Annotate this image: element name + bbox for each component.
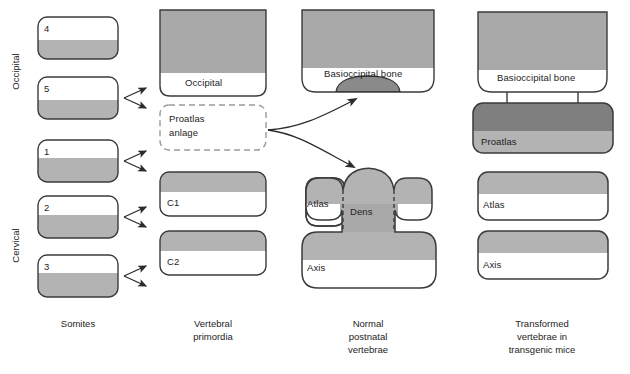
caption-transformed-line1: Transformed (472, 318, 612, 331)
somite-box-1 (38, 140, 118, 182)
split-arrow-somite-2 (124, 207, 146, 227)
label-basioccipital-normal: Basioccipital bone (324, 68, 402, 80)
caption-transformed-line2: vertebrae in (472, 331, 612, 344)
label-occipital-primordium: Occipital (185, 77, 222, 89)
somite-box-5 (38, 77, 118, 119)
caption-vertebral-primordia-line1: Vertebral (143, 318, 283, 331)
proatlas-fate-arrows (268, 99, 356, 167)
c1-primordium-box (160, 172, 266, 216)
label-atlas-transformed: Atlas (483, 199, 505, 211)
somite-number-1: 1 (44, 146, 49, 157)
label-proatlas-transformed: Proatlas (481, 136, 517, 148)
split-arrow-somite-5 (124, 88, 146, 108)
region-label-cervical: Cervical (10, 220, 21, 272)
basioccipital-proatlas-connectors (507, 92, 578, 104)
label-dens: Dens (350, 206, 373, 218)
label-atlas-normal: Atlas (307, 198, 329, 210)
caption-normal-line2: postnatal (298, 331, 438, 344)
label-axis-normal: Axis (307, 262, 325, 274)
caption-somites: Somites (8, 318, 148, 331)
atlas-box-transformed (478, 172, 608, 220)
caption-normal-line1: Normal (298, 318, 438, 331)
somite-number-5: 5 (44, 83, 49, 94)
somite-box-3 (38, 255, 118, 297)
somite-box-2 (38, 196, 118, 238)
caption-transformed-line3: transgenic mice (472, 344, 612, 357)
label-axis-transformed: Axis (483, 259, 501, 271)
split-arrow-somite-3 (124, 266, 146, 286)
label-proatlas-anlage-line2: anlage (169, 127, 198, 139)
split-arrow-somite-1 (124, 151, 146, 171)
region-label-occipital: Occipital (10, 44, 21, 100)
somite-number-4: 4 (44, 23, 49, 34)
caption-normal-line3: vertebrae (298, 344, 438, 357)
c2-primordium-box (160, 231, 266, 275)
diagram-canvas: Occipital Cervical 4 5 1 2 3 Occipital P… (0, 0, 630, 374)
somite-box-4 (38, 17, 118, 59)
somite-number-2: 2 (44, 202, 49, 213)
label-c1: C1 (167, 197, 179, 209)
label-proatlas-anlage-line1: Proatlas (169, 113, 205, 125)
caption-vertebral-primordia-line2: primordia (143, 331, 283, 344)
label-c2: C2 (167, 256, 179, 268)
axis-box-transformed (478, 231, 608, 279)
label-basioccipital-transformed: Basioccipital bone (497, 72, 575, 84)
somite-number-3: 3 (44, 261, 49, 272)
